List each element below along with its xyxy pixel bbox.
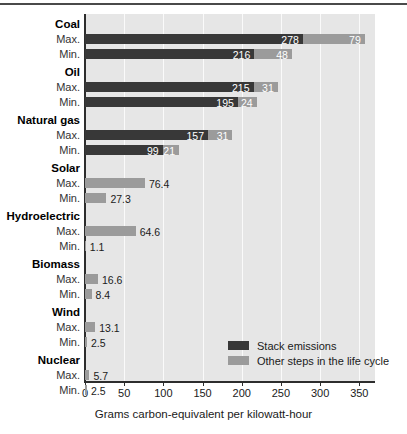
group-label-coal: Coal: [0, 18, 80, 30]
row-label-coal-min: Min.: [0, 48, 80, 60]
emissions-bar-chart: 050100150200250300350 CoalMax.27879Min.2…: [0, 0, 407, 434]
row-label-oil-min: Min.: [0, 96, 80, 108]
group-label-wind: Wind: [0, 306, 80, 318]
bar-segment-other: [85, 193, 106, 203]
bar-segment-stack: [85, 34, 303, 44]
bar-segment-stack: [85, 49, 254, 59]
bar-value-other: 24: [241, 98, 253, 108]
bar-segment-other: [85, 385, 87, 395]
bar-value-other: 31: [262, 83, 274, 93]
x-axis-line: [84, 381, 375, 383]
bar-segment-other: [85, 226, 136, 236]
bar-segment-other: [85, 274, 98, 284]
gridline-100: [163, 14, 164, 382]
bar-segment-other: [85, 289, 92, 299]
bar-segment-other: [85, 241, 86, 251]
legend-label-stack: Stack emissions: [257, 340, 336, 352]
row-label-biomass-max: Max.: [0, 273, 80, 285]
bar-value-other: 16.6: [102, 275, 122, 285]
bar-segment-other: [85, 178, 145, 188]
x-tick-label-50: 50: [104, 387, 144, 399]
bar-value-stack: 278: [281, 35, 299, 45]
bar-value-other: 79: [349, 35, 361, 45]
x-tick-150: [203, 382, 204, 386]
chart-legend: Stack emissions Other steps in the life …: [228, 338, 389, 368]
bar-value-other: 13.1: [99, 323, 119, 333]
row-label-coal-max: Max.: [0, 33, 80, 45]
x-tick-200: [242, 382, 243, 386]
row-label-nuclear-max: Max.: [0, 369, 80, 381]
bar-segment-stack: [85, 97, 238, 107]
group-label-hydroelectric: Hydroelectric: [0, 210, 80, 222]
bar-value-other: 31: [217, 131, 229, 141]
x-tick-250: [281, 382, 282, 386]
legend-item-stack-emissions: Stack emissions: [228, 338, 389, 353]
bar-value-stack: 157: [187, 131, 205, 141]
x-tick-label-150: 150: [183, 387, 223, 399]
x-tick-label-350: 350: [339, 387, 379, 399]
row-label-natural-gas-min: Min.: [0, 144, 80, 156]
bar-segment-other: [85, 370, 89, 380]
x-tick-label-200: 200: [222, 387, 262, 399]
legend-swatch-icon-stack: [228, 341, 249, 350]
bar-segment-other: [85, 337, 87, 347]
bar-value-stack: 215: [232, 83, 250, 93]
x-tick-50: [124, 382, 125, 386]
top-rule-divider: [0, 3, 407, 5]
gridline-350: [359, 14, 360, 382]
x-tick-100: [163, 382, 164, 386]
bar-value-stack: 216: [233, 50, 251, 60]
group-label-biomass: Biomass: [0, 258, 80, 270]
x-tick-label-100: 100: [143, 387, 183, 399]
row-label-oil-max: Max.: [0, 81, 80, 93]
row-label-wind-min: Min.: [0, 336, 80, 348]
group-label-oil: Oil: [0, 66, 80, 78]
x-tick-350: [359, 382, 360, 386]
bar-value-other: 48: [276, 50, 288, 60]
x-tick-label-250: 250: [261, 387, 301, 399]
bar-value-other: 2.5: [91, 338, 106, 348]
gridline-200: [242, 14, 243, 382]
row-label-hydroelectric-min: Min.: [0, 240, 80, 252]
x-tick-300: [320, 382, 321, 386]
x-axis-label: Grams carbon-equivalent per kilowatt-hou…: [0, 408, 407, 420]
bar-segment-stack: [85, 82, 254, 92]
bar-value-other: 64.6: [140, 227, 160, 237]
row-label-solar-max: Max.: [0, 177, 80, 189]
row-label-natural-gas-max: Max.: [0, 129, 80, 141]
gridline-300: [320, 14, 321, 382]
gridline-250: [281, 14, 282, 382]
group-label-nuclear: Nuclear: [0, 354, 80, 366]
bar-value-stack: 99: [147, 146, 159, 156]
legend-swatch-icon-other: [228, 356, 249, 365]
row-label-solar-min: Min.: [0, 192, 80, 204]
bar-value-other: 2.5: [91, 386, 106, 396]
group-label-solar: Solar: [0, 162, 80, 174]
x-tick-label-300: 300: [300, 387, 340, 399]
bar-value-other: 5.7: [93, 371, 108, 381]
row-label-nuclear-min: Min.: [0, 384, 80, 396]
bar-value-other: 76.4: [149, 179, 169, 189]
legend-item-other-steps: Other steps in the life cycle: [228, 353, 389, 368]
gridline-150: [203, 14, 204, 382]
legend-label-other: Other steps in the life cycle: [257, 355, 389, 367]
row-label-biomass-min: Min.: [0, 288, 80, 300]
bar-value-stack: 195: [216, 98, 234, 108]
bar-segment-other: [85, 322, 95, 332]
row-label-hydroelectric-max: Max.: [0, 225, 80, 237]
bar-value-other: 21: [163, 146, 175, 156]
bar-value-other: 8.4: [96, 290, 111, 300]
bar-value-other: 1.1: [90, 242, 105, 252]
bar-value-other: 27.3: [110, 194, 130, 204]
row-label-wind-max: Max.: [0, 321, 80, 333]
group-label-natural-gas: Natural gas: [0, 114, 80, 126]
